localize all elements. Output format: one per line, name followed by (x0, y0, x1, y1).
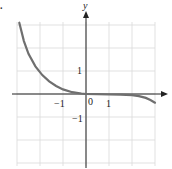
plot-area (0, 0, 172, 169)
tick-label-x-neg1: −1 (54, 99, 65, 109)
tick-label-y-neg1: −1 (72, 114, 83, 124)
y-axis-arrow-icon (83, 11, 89, 18)
tick-label-y-1: 1 (77, 66, 82, 76)
y-axis-label: y (83, 1, 87, 11)
tick-label-x-0: 0 (88, 97, 93, 107)
x-axis-arrow-icon (161, 91, 168, 97)
tick-label-x-1: 1 (106, 99, 111, 109)
